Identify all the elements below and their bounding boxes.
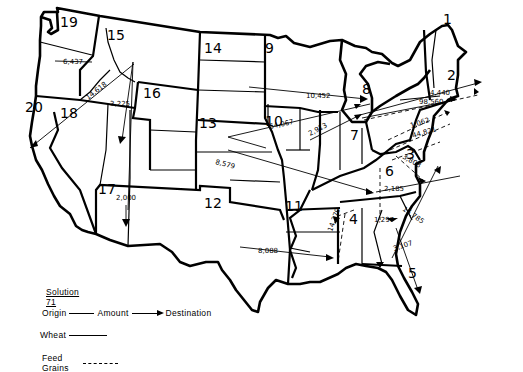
- region-label-16: 16: [143, 85, 161, 101]
- region-label-7: 7: [350, 127, 359, 143]
- legend-wheat-row: Wheat: [40, 330, 110, 340]
- flow-amount: 98,560: [419, 98, 444, 106]
- region-label-9: 9: [265, 40, 274, 56]
- region-label-17: 17: [98, 181, 116, 197]
- region-label-5: 5: [408, 265, 417, 281]
- flow-amount: 8,088: [258, 247, 278, 255]
- dashed-line-icon: [83, 363, 118, 364]
- us-outline: [30, 8, 466, 315]
- flow-amount: 6,437: [63, 58, 83, 66]
- solid-line-icon: [69, 335, 107, 336]
- legend-origin-label: Origin: [42, 308, 66, 318]
- arrow-right-icon: [157, 310, 164, 316]
- flow-amount: 8,579: [215, 158, 236, 171]
- region-label-18: 18: [60, 105, 78, 121]
- region-label-1: 1: [443, 11, 452, 27]
- flow-amount: 2,913: [307, 121, 328, 137]
- region-labels: 1 2 3 4 5 6 7 8 9 10 11 12 13 14 15 16 1…: [25, 11, 456, 281]
- legend-amount-label: Amount: [97, 308, 128, 318]
- region-label-6: 6: [385, 163, 394, 179]
- flow-amount: 2,000: [116, 194, 136, 202]
- legend-wheat-label: Wheat: [40, 330, 66, 340]
- flow-amount: 4,440: [430, 89, 450, 97]
- region-label-12: 12: [204, 195, 222, 211]
- region-label-2: 2: [447, 67, 456, 83]
- legend-feed-grains-row: Feed Grains: [42, 353, 121, 372]
- legend-format-row: Origin Amount Destination: [42, 308, 211, 318]
- flow-amount: 14,379: [326, 207, 342, 233]
- region-label-8: 8: [362, 81, 371, 97]
- legend-destination-label: Destination: [166, 308, 212, 318]
- region-label-19: 19: [60, 14, 78, 30]
- region-label-13: 13: [199, 115, 217, 131]
- puget-sound: [41, 12, 58, 34]
- flow-amount: 3,107: [392, 239, 414, 253]
- region-label-20: 20: [25, 99, 43, 115]
- flow-amount: 2,185: [384, 185, 404, 193]
- region-label-14: 14: [204, 40, 222, 56]
- region-boundaries: [36, 16, 452, 284]
- flow-amount: 10,452: [306, 92, 331, 100]
- legend-title: Solution 71: [46, 287, 79, 307]
- region-label-11: 11: [285, 198, 303, 214]
- region-label-4: 4: [349, 211, 358, 227]
- region-label-15: 15: [107, 27, 125, 43]
- flow-amount: 1,297: [374, 216, 394, 224]
- flow-lines: [30, 61, 482, 294]
- legend-feed-grains-label: Feed Grains: [42, 353, 80, 372]
- legend-line: [69, 313, 94, 314]
- legend-line: [132, 313, 157, 314]
- flow-amount: 3,225: [110, 100, 130, 108]
